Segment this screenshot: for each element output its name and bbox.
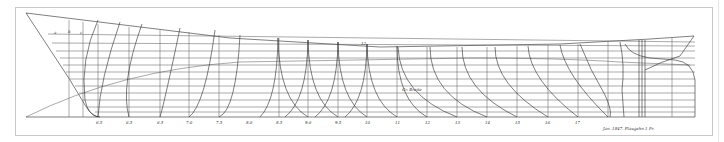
svg-text:7.5: 7.5 <box>216 120 223 125</box>
station-lines <box>69 20 672 117</box>
svg-text:16: 16 <box>545 120 551 125</box>
svg-text:8.5: 8.5 <box>276 120 283 125</box>
svg-text:7.0: 7.0 <box>186 120 193 125</box>
svg-text:6.5: 6.5 <box>96 120 103 125</box>
svg-text:6.5: 6.5 <box>126 120 133 125</box>
deck-mark: 12 <box>361 41 367 46</box>
svg-text:b: b <box>68 29 71 34</box>
svg-text:9.0: 9.0 <box>305 120 312 125</box>
station-labels: 6.5 6.5 6.5 7.0 7.5 8.0 8.5 9.0 9.5 10 1… <box>96 120 581 125</box>
lines-plan: 6.5 6.5 6.5 7.0 7.5 8.0 8.5 9.0 9.5 10 1… <box>0 0 724 142</box>
stern-post <box>625 36 695 117</box>
svg-text:13: 13 <box>455 120 461 125</box>
sheer-line <box>26 13 694 47</box>
svg-text:10: 10 <box>365 120 371 125</box>
svg-text:14: 14 <box>485 120 491 125</box>
midship-sections <box>260 38 427 117</box>
svg-text:9.5: 9.5 <box>335 120 342 125</box>
signature: Jan. 1847. Plaugehn 1 Fr. <box>602 126 655 131</box>
svg-text:8.0: 8.0 <box>246 120 253 125</box>
svg-text:6.5: 6.5 <box>157 120 164 125</box>
waterlines <box>48 34 695 112</box>
diagonal-curve <box>26 58 690 117</box>
svg-text:15: 15 <box>515 120 521 125</box>
aft-sections <box>398 42 624 117</box>
svg-text:11: 11 <box>395 120 400 125</box>
midship-note: Gr. Breite <box>402 87 422 92</box>
svg-text:12: 12 <box>425 120 431 125</box>
svg-text:17: 17 <box>575 120 581 125</box>
